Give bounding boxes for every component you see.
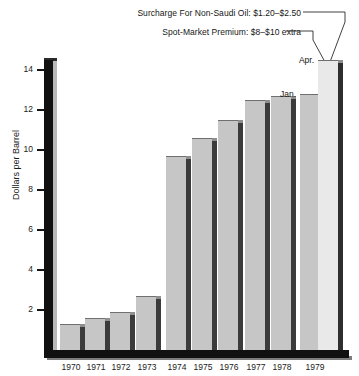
bar-1979-jan — [300, 94, 320, 350]
bar-side-shadow — [156, 299, 161, 350]
y-tick-label-2: 2 — [11, 304, 33, 314]
bar-face — [85, 318, 105, 350]
bar-1978 — [271, 96, 291, 350]
bar-1974 — [166, 156, 186, 350]
y-tick-mark-10 — [37, 149, 45, 151]
y-tick-label-14: 14 — [11, 64, 33, 74]
bar-1971 — [85, 318, 105, 350]
y-tick-label-8: 8 — [11, 184, 33, 194]
bar-sublabel-apr: Apr. — [272, 55, 314, 65]
bar-top-bevel — [265, 100, 270, 103]
bar-chart: Surcharge For Non-Saudi Oil: $1.20–$2.50… — [0, 0, 359, 376]
y-tick-mark-12 — [37, 109, 45, 111]
y-tick-label-4: 4 — [11, 264, 33, 274]
bar-top-bevel — [186, 156, 191, 159]
y-tick-label-10: 10 — [11, 144, 33, 154]
annotation-surcharge: Surcharge For Non-Saudi Oil: $1.20–$2.50 — [137, 8, 301, 18]
bar-side-shadow — [186, 159, 191, 350]
x-year-label-1973: 1973 — [130, 362, 164, 372]
bar-side-shadow — [238, 123, 243, 350]
y-tick-mark-14 — [37, 69, 45, 71]
y-tick-mark-8 — [37, 189, 45, 191]
bar-1973 — [136, 296, 156, 350]
bar-top-bevel — [130, 312, 135, 315]
bar-1972 — [110, 312, 130, 350]
bar-1970 — [60, 324, 80, 350]
y-tick-mark-6 — [37, 229, 45, 231]
y-axis-bar — [44, 60, 53, 352]
bar-1976 — [218, 120, 238, 350]
bar-side-shadow — [291, 99, 296, 350]
y-tick-label-12: 12 — [11, 104, 33, 114]
bar-face — [300, 94, 320, 350]
bar-side-shadow — [212, 141, 217, 350]
x-year-label-1978: 1978 — [265, 362, 299, 372]
y-tick-mark-4 — [37, 269, 45, 271]
y-axis-title: Dollars per Barrel — [11, 105, 21, 225]
bar-face — [166, 156, 186, 350]
bar-face — [192, 138, 212, 350]
bar-face — [218, 120, 238, 350]
bar-side-shadow — [338, 63, 343, 350]
bar-1975 — [192, 138, 212, 350]
x-year-label-1979: 1979 — [298, 362, 332, 372]
annotation-spot-market: Spot-Market Premium: $8–$10 extra — [162, 27, 301, 37]
bar-side-shadow — [265, 103, 270, 350]
bar-side-shadow — [130, 315, 135, 350]
y-tick-label-6: 6 — [11, 224, 33, 234]
bar-face — [271, 96, 291, 350]
y-axis-highlight — [53, 61, 57, 351]
bar-sublabel-jan: Jan. — [254, 89, 296, 99]
y-tick-mark-2 — [37, 309, 45, 311]
bar-top-bevel — [156, 296, 161, 299]
bar-top-bevel — [212, 138, 217, 141]
bar-face — [110, 312, 130, 350]
bar-face — [60, 324, 80, 350]
x-axis-bar — [44, 350, 349, 358]
bar-top-bevel — [238, 120, 243, 123]
bar-face — [318, 60, 338, 350]
bar-face — [136, 296, 156, 350]
bar-1977 — [245, 100, 265, 350]
bar-1979-apr — [318, 60, 338, 350]
bar-face — [245, 100, 265, 350]
bar-top-bevel — [338, 60, 343, 63]
